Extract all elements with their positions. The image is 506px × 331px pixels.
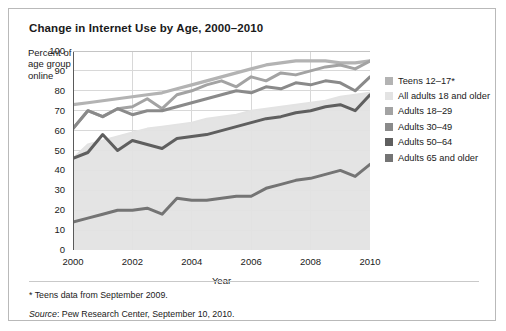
y-tick-label: 60 [39, 126, 65, 136]
y-tick-label: 50 [39, 146, 65, 156]
y-tick-label: 100 [39, 46, 65, 56]
legend-item-label: Adults 30–49 [398, 122, 452, 132]
chart-footnote: * Teens data from September 2009. [29, 290, 168, 300]
y-tick-label: 30 [39, 185, 65, 195]
chart-legend: Teens 12–17*All adults 18 and olderAdult… [385, 73, 491, 165]
figure-panel: Change in Internet Use by Age, 2000–2010… [8, 8, 496, 321]
chart-title: Change in Internet Use by Age, 2000–2010 [29, 22, 263, 34]
legend-item[interactable]: All adults 18 and older [385, 88, 491, 103]
x-tick-label: 2010 [350, 257, 390, 267]
x-tick-label: 2006 [231, 257, 271, 267]
legend-swatch-icon [385, 123, 393, 131]
plot-area: 0102030405060708090100200020022004200620… [73, 51, 370, 250]
legend-swatch-icon [385, 154, 393, 162]
legend-item[interactable]: Adults 30–49 [385, 119, 491, 134]
y-tick-label: 20 [39, 205, 65, 215]
legend-item-label: Adults 18–29 [398, 106, 452, 116]
y-tick-label: 0 [39, 245, 65, 255]
legend-item[interactable]: Adults 18–29 [385, 104, 491, 119]
legend-item-label: All adults 18 and older [398, 91, 490, 101]
chart-canvas [73, 51, 370, 250]
x-tick-label: 2002 [112, 257, 152, 267]
legend-item-label: Teens 12–17* [398, 76, 455, 86]
footer-divider [29, 281, 479, 282]
x-tick-label: 2004 [172, 257, 212, 267]
legend-item[interactable]: Adults 65 and older [385, 150, 491, 165]
chart-source: Source: Pew Research Center, September 1… [29, 309, 234, 319]
source-word: Source [29, 309, 57, 319]
legend-item[interactable]: Teens 12–17* [385, 73, 491, 88]
legend-swatch-icon [385, 92, 393, 100]
y-tick-label: 40 [39, 165, 65, 175]
source-text: : Pew Research Center, September 10, 201… [57, 309, 235, 319]
legend-item-label: Adults 50–64 [398, 137, 452, 147]
y-tick-label: 80 [39, 86, 65, 96]
legend-swatch-icon [385, 77, 393, 85]
legend-item-label: Adults 65 and older [398, 153, 478, 163]
legend-item[interactable]: Adults 50–64 [385, 135, 491, 150]
x-tick-label: 2000 [53, 257, 93, 267]
y-tick-label: 90 [39, 66, 65, 76]
x-tick-label: 2008 [291, 257, 331, 267]
legend-swatch-icon [385, 138, 393, 146]
y-tick-label: 70 [39, 106, 65, 116]
legend-swatch-icon [385, 107, 393, 115]
y-tick-label: 10 [39, 225, 65, 235]
